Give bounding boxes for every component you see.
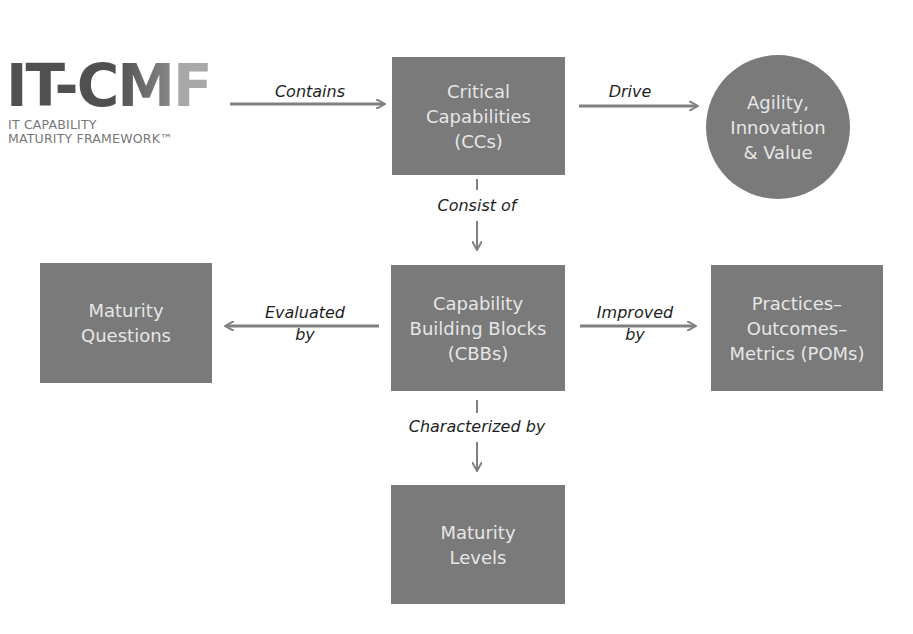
node-maturity-levels-label: Maturity Levels — [440, 520, 515, 570]
node-maturity-questions-label: Maturity Questions — [81, 298, 171, 348]
node-capability-building-blocks-label: Capability Building Blocks (CBBs) — [410, 291, 547, 366]
edge-label-contains: Contains — [255, 81, 365, 103]
node-practices-outcomes-metrics-label: Practices– Outcomes– Metrics (POMs) — [729, 291, 864, 366]
edge-label-drive: Drive — [590, 81, 670, 103]
edge-label-consist-of: Consist of — [417, 195, 537, 217]
edge-label-characterized-by: Characterized by — [397, 416, 557, 438]
node-critical-capabilities: Critical Capabilities (CCs) — [392, 57, 565, 175]
node-maturity-questions: Maturity Questions — [40, 263, 212, 383]
node-practices-outcomes-metrics: Practices– Outcomes– Metrics (POMs) — [711, 265, 883, 391]
node-agility-innovation-value: Agility, Innovation & Value — [706, 55, 850, 199]
edge-label-evaluated-by: Evaluated by — [250, 302, 360, 346]
node-agility-innovation-value-label: Agility, Innovation & Value — [730, 90, 825, 165]
node-capability-building-blocks: Capability Building Blocks (CBBs) — [391, 265, 565, 391]
edge-label-improved-by: Improved by — [580, 302, 690, 346]
node-maturity-levels: Maturity Levels — [391, 485, 565, 604]
node-critical-capabilities-label: Critical Capabilities (CCs) — [426, 79, 531, 154]
